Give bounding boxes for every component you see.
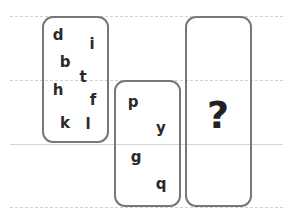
letter-d: d: [53, 28, 64, 43]
letter-t: t: [79, 70, 86, 85]
letter-y: y: [156, 121, 166, 136]
letter-b: b: [60, 55, 71, 70]
letter-q: q: [156, 177, 167, 192]
letter-h: h: [53, 83, 64, 98]
letter-k: k: [60, 116, 70, 131]
question-mark: ?: [207, 96, 229, 134]
letter-pattern-puzzle: d i b t h f k l p y g q ?: [0, 0, 292, 224]
letter-p: p: [128, 95, 139, 110]
letter-l: l: [85, 117, 90, 132]
box-descender-letters: [114, 80, 181, 207]
letter-g: g: [131, 150, 142, 165]
letter-f: f: [90, 93, 97, 108]
letter-i: i: [89, 37, 94, 52]
descender-guide-line: [10, 207, 283, 208]
